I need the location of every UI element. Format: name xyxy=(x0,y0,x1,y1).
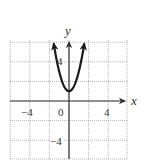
y-axis-label: y xyxy=(63,23,71,38)
x-tick-label-plus4: 4 xyxy=(104,106,110,118)
x-axis-label: x xyxy=(130,93,137,108)
x-tick-label-zero: 0 xyxy=(58,106,64,118)
y-tick-label-minus4: −4 xyxy=(50,135,62,147)
x-tick-label-minus4: −4 xyxy=(21,106,33,118)
y-tick-label-plus4: 4 xyxy=(57,55,63,67)
parabola-graph: y x −4 0 4 4 −4 xyxy=(0,0,153,165)
